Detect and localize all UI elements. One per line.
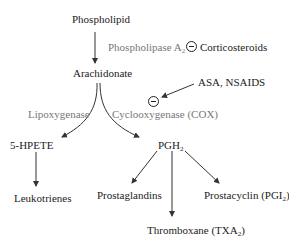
node-5-hpete: 5-HPETE bbox=[10, 139, 53, 151]
node-prostacyclin-tail: ) bbox=[286, 189, 289, 201]
node-arachidonate: Arachidonate bbox=[73, 67, 132, 79]
node-thromboxane-tail: ) bbox=[241, 224, 245, 236]
enzyme-phospholipase-a2: Phospholipase A2 bbox=[108, 41, 185, 53]
node-prostacyclin-base: Prostacyclin (PGI bbox=[204, 189, 283, 201]
arrow-nsaids-cox bbox=[162, 84, 194, 97]
enzyme-lipoxygenase: Lipoxygenase bbox=[28, 108, 90, 120]
node-prostacyclin: Prostacyclin (PGI2) bbox=[204, 189, 289, 201]
inhibit-icon-corticosteroids bbox=[186, 41, 197, 52]
pathway-arrows bbox=[0, 0, 289, 244]
node-pgh2-base: PGH bbox=[158, 139, 180, 151]
enzyme-cox: Cyclooxygenase (COX) bbox=[112, 108, 218, 120]
node-pgh2: PGH2 bbox=[158, 139, 184, 151]
arrow-pgh2-prostacyclin bbox=[185, 151, 219, 183]
node-phospholipid: Phospholipid bbox=[72, 13, 130, 25]
inhibit-icon-cox bbox=[148, 96, 159, 107]
node-thromboxane-base: Thromboxane (TXA bbox=[147, 224, 238, 236]
node-prostaglandins: Prostaglandins bbox=[97, 189, 162, 201]
node-thromboxane: Thromboxane (TXA2) bbox=[147, 224, 245, 236]
enzyme-phospholipase-sub: 2 bbox=[182, 47, 186, 55]
enzyme-phospholipase-base: Phospholipase A bbox=[108, 41, 182, 53]
node-pgh2-sub: 2 bbox=[180, 145, 184, 153]
inhibitor-nsaids: ASA, NSAIDS bbox=[198, 76, 265, 88]
arrow-pgh2-prostaglandins bbox=[132, 151, 157, 183]
inhibitor-corticosteroids: Corticosteroids bbox=[200, 41, 267, 53]
node-leukotrienes: Leukotrienes bbox=[14, 192, 71, 204]
